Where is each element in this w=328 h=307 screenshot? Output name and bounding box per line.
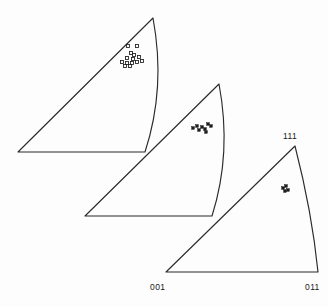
data-point: [198, 129, 201, 132]
data-point: [287, 189, 290, 192]
data-point: [207, 123, 210, 126]
axis-label-011: 011: [305, 283, 320, 292]
axis-label-001: 001: [150, 283, 165, 292]
data-point: [282, 187, 285, 190]
triangle-panel-1: [18, 18, 158, 152]
axis-label-111: 111: [283, 132, 297, 141]
data-point: [210, 125, 213, 128]
data-point: [285, 185, 288, 188]
data-point: [192, 127, 195, 130]
data-point: [201, 126, 204, 129]
inverse-pole-figure: 111 001 011: [0, 0, 328, 307]
data-point: [205, 131, 208, 134]
data-point: [196, 125, 199, 128]
pole-figure-canvas: [0, 0, 328, 307]
data-point: [204, 128, 207, 131]
data-point: [284, 190, 287, 193]
